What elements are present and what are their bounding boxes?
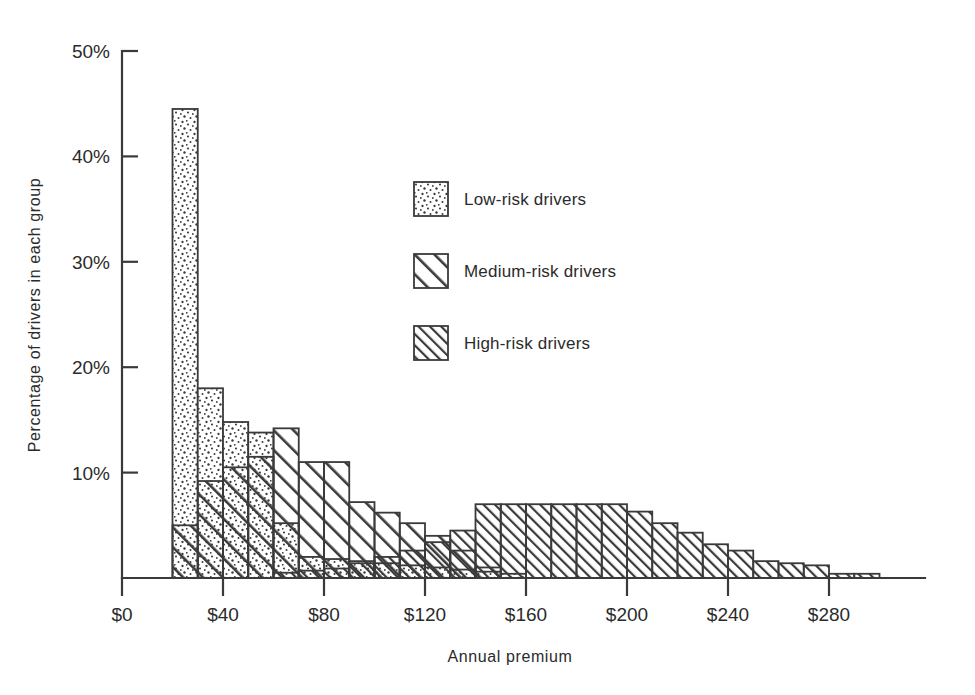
histogram-bar — [248, 457, 273, 578]
histogram-bar — [173, 109, 198, 578]
histogram-bar — [678, 533, 703, 578]
y-tick-label: 40% — [72, 146, 110, 167]
histogram-bar — [652, 523, 677, 578]
x-tick-label: $240 — [707, 604, 749, 625]
histogram-bar — [779, 563, 804, 578]
legend-swatch-dots — [414, 182, 448, 216]
y-tick-label: 50% — [72, 41, 110, 62]
chart-canvas: 10%20%30%40%50%$0$40$80$120$160$200$240$… — [0, 0, 975, 695]
histogram-bar — [375, 557, 400, 578]
histogram-bar — [299, 571, 324, 578]
histogram-bar — [425, 542, 450, 578]
x-axis-title: Annual premium — [448, 648, 573, 665]
legend-swatch-wide-hatch — [414, 254, 448, 288]
histogram-bar — [299, 462, 324, 578]
histogram-bar — [602, 504, 627, 578]
y-tick-label: 10% — [72, 463, 110, 484]
y-tick-label: 20% — [72, 357, 110, 378]
histogram-chart: 10%20%30%40%50%$0$40$80$120$160$200$240$… — [0, 0, 975, 695]
histogram-bar — [753, 561, 778, 578]
histogram-bar — [804, 565, 829, 578]
y-tick-label: 30% — [72, 252, 110, 273]
x-tick-label: $120 — [404, 604, 446, 625]
histogram-bar — [526, 504, 551, 578]
x-tick-label: $280 — [808, 604, 850, 625]
legend-label: Low-risk drivers — [464, 190, 586, 209]
histogram-bar — [198, 481, 223, 578]
histogram-bar — [349, 563, 374, 578]
legend-swatch-tight-hatch — [414, 326, 448, 360]
x-tick-label: $40 — [207, 604, 239, 625]
chart-legend: Low-risk driversMedium-risk driversHigh-… — [414, 182, 616, 360]
histogram-bar — [551, 504, 576, 578]
histogram-bar — [501, 504, 526, 578]
x-tick-label: $80 — [308, 604, 340, 625]
x-tick-label: $200 — [606, 604, 648, 625]
legend-label: High-risk drivers — [464, 334, 590, 353]
histogram-bar — [324, 569, 349, 578]
histogram-bar — [476, 504, 501, 578]
histogram-bar — [274, 428, 299, 578]
histogram-bar — [450, 531, 475, 578]
histogram-bar — [173, 525, 198, 578]
histogram-bar — [223, 467, 248, 578]
histogram-bar — [728, 551, 753, 578]
histogram-bar — [627, 512, 652, 578]
histogram-bar — [400, 551, 425, 578]
y-axis-title: Percentage of drivers in each group — [26, 178, 43, 452]
histogram-bar — [324, 462, 349, 578]
legend-label: Medium-risk drivers — [464, 262, 616, 281]
x-tick-label: $0 — [111, 604, 132, 625]
histogram-bar — [703, 544, 728, 578]
x-tick-label: $160 — [505, 604, 547, 625]
histogram-bar — [577, 504, 602, 578]
